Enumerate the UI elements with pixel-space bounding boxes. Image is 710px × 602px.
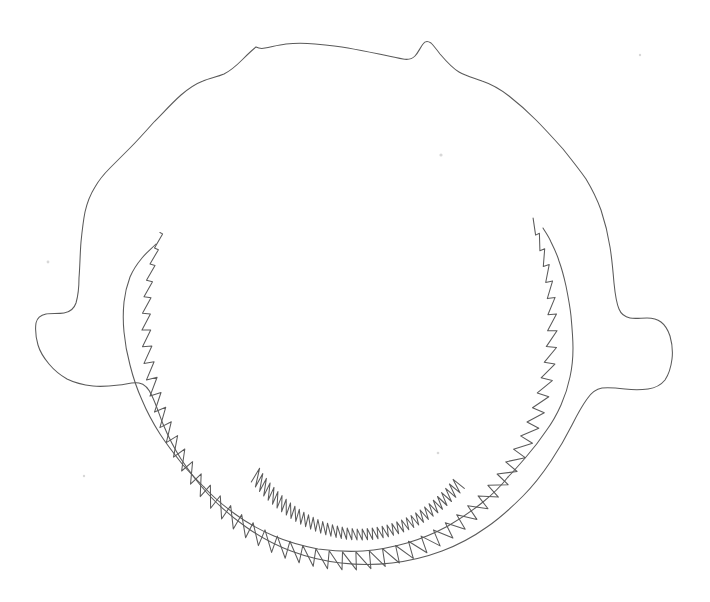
paper-speck [639, 54, 641, 56]
paper-speck [83, 475, 85, 477]
drawing-canvas [0, 0, 710, 602]
paper-speck [437, 452, 440, 455]
figure-background [0, 0, 710, 602]
shark-jaw-figure [0, 0, 710, 602]
paper-speck [47, 261, 50, 264]
paper-speck [439, 153, 442, 156]
